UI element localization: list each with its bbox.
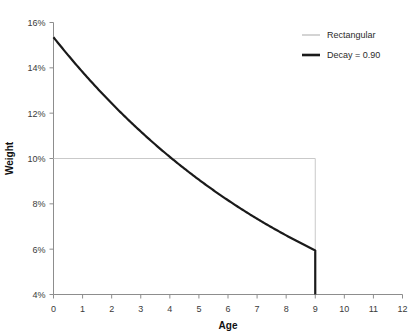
x-tick-label: 3 — [138, 304, 143, 314]
legend: RectangularDecay = 0.90 — [302, 30, 380, 60]
y-tick-label: 4% — [32, 290, 45, 300]
chart-container: 4%6%8%10%12%14%16%0123456789101112AgeWei… — [0, 0, 411, 335]
x-axis-ticks: 0123456789101112 — [51, 295, 408, 314]
legend-label: Rectangular — [327, 30, 376, 40]
x-tick-label: 1 — [80, 304, 85, 314]
y-tick-label: 8% — [32, 199, 45, 209]
x-tick-label: 10 — [339, 304, 349, 314]
y-axis-ticks: 4%6%8%10%12%14%16% — [27, 18, 53, 300]
y-axis-title: Weight — [4, 141, 15, 175]
x-axis-title: Age — [219, 320, 238, 331]
x-tick-label: 7 — [255, 304, 260, 314]
y-tick-label: 6% — [32, 245, 45, 255]
weight-decay-line-chart: 4%6%8%10%12%14%16%0123456789101112AgeWei… — [0, 0, 411, 335]
y-tick-label: 16% — [27, 18, 45, 28]
x-tick-label: 12 — [397, 304, 407, 314]
x-tick-label: 6 — [225, 304, 230, 314]
y-tick-label: 14% — [27, 63, 45, 73]
x-tick-label: 5 — [196, 304, 201, 314]
x-tick-label: 8 — [284, 304, 289, 314]
series-line-rectangular — [54, 159, 316, 295]
legend-label: Decay = 0.90 — [327, 50, 380, 60]
x-tick-label: 2 — [109, 304, 114, 314]
y-tick-label: 12% — [27, 109, 45, 119]
series-line-decay — [54, 37, 316, 294]
y-tick-label: 10% — [27, 154, 45, 164]
x-tick-label: 0 — [51, 304, 56, 314]
x-tick-label: 9 — [313, 304, 318, 314]
x-tick-label: 4 — [167, 304, 172, 314]
x-tick-label: 11 — [369, 304, 378, 314]
